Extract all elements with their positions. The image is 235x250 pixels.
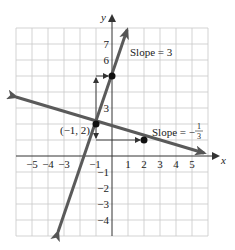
- point-label: (−1, 2): [60, 124, 90, 137]
- svg-text:−3: −3: [58, 158, 70, 170]
- svg-text:−1: −1: [97, 166, 109, 178]
- y-tick-labels: 7 6 3 −1 −2 −3 −4: [97, 38, 109, 226]
- svg-text:1: 1: [197, 122, 201, 131]
- svg-text:4: 4: [173, 158, 179, 170]
- point-0-5: [109, 73, 116, 80]
- coordinate-plane: x y −5 −4 −3 −1 1 2 3 4 5 7 6 3 −1 −2 −3…: [0, 0, 235, 250]
- slope-neg-third-label: Slope = −: [152, 126, 195, 138]
- svg-text:−3: −3: [97, 198, 109, 210]
- svg-text:3: 3: [104, 102, 110, 114]
- x-axis-label: x: [220, 154, 226, 166]
- svg-text:−2: −2: [97, 182, 109, 194]
- svg-text:5: 5: [189, 158, 195, 170]
- svg-text:1: 1: [125, 158, 131, 170]
- point-neg1-2: [93, 121, 100, 128]
- svg-text:−4: −4: [42, 158, 54, 170]
- x-tick-labels: −5 −4 −3 −1 1 2 3 4 5: [26, 158, 195, 170]
- svg-text:6: 6: [104, 54, 110, 66]
- point-2-1: [141, 137, 148, 144]
- svg-text:2: 2: [141, 158, 147, 170]
- svg-text:7: 7: [104, 38, 110, 50]
- svg-text:−5: −5: [26, 158, 38, 170]
- slope-3-label: Slope = 3: [130, 46, 173, 58]
- svg-text:−4: −4: [97, 214, 109, 226]
- y-axis-label: y: [100, 11, 106, 23]
- svg-text:3: 3: [197, 132, 201, 141]
- svg-text:3: 3: [157, 158, 163, 170]
